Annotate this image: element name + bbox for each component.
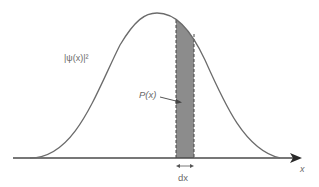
axis-label: x <box>299 164 305 174</box>
dx-arrow-right-icon <box>190 164 194 168</box>
density-curve <box>30 13 280 158</box>
density-label: |ψ(x)|² <box>64 53 89 63</box>
interval-label: dx <box>178 172 188 183</box>
probability-diagram: |ψ(x)|² P(x) dx x <box>0 0 319 187</box>
probability-label: P(x) <box>139 89 156 100</box>
shaded-probability-strip <box>30 13 280 158</box>
dx-arrow-left-icon <box>176 164 180 168</box>
